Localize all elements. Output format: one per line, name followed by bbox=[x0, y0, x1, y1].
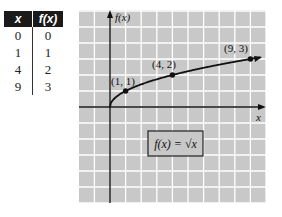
point-1-1 bbox=[123, 88, 128, 93]
y-axis-label: f(x) bbox=[115, 11, 131, 24]
function-label: f(x) = √x bbox=[154, 137, 197, 151]
point-label-1-1: (1, 1) bbox=[111, 75, 135, 88]
x-axis-label: x bbox=[255, 111, 261, 123]
point-label-9-3: (9, 3) bbox=[224, 42, 248, 55]
point-4-2 bbox=[170, 72, 175, 77]
point-label-4-2: (4, 2) bbox=[152, 58, 176, 71]
sqrt-chart: x f(x) (1, 1) (4, 2) (9, 3) f(x) = √x bbox=[0, 0, 282, 217]
point-9-3 bbox=[248, 56, 253, 61]
